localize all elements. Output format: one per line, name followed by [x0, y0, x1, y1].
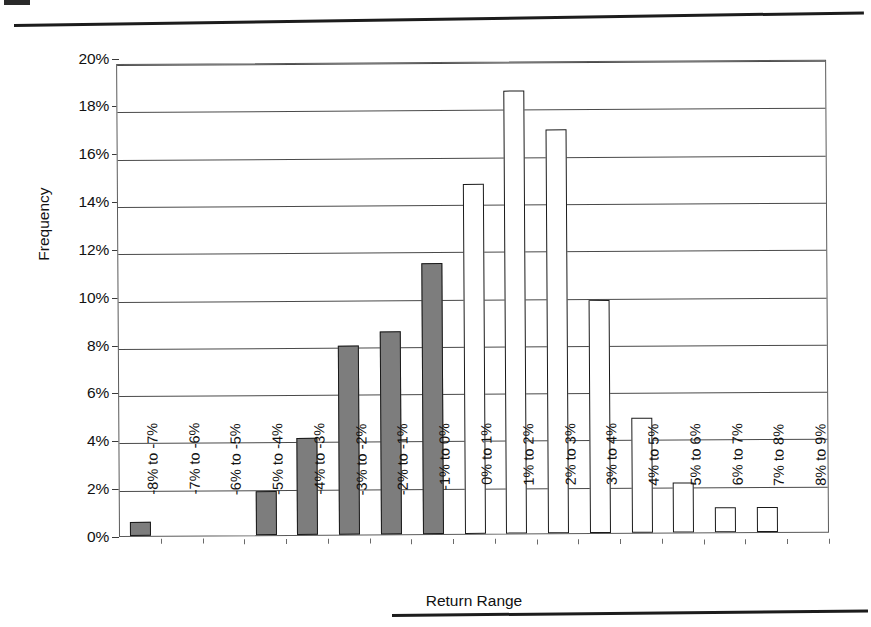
y-tick-label: 8% [53, 338, 109, 354]
y-tick-label: 0% [53, 529, 109, 545]
y-tick-label: 2% [53, 481, 109, 497]
y-tick-label: 10% [53, 290, 109, 306]
x-tick-label: -3% to -2% [354, 423, 370, 543]
x-tick-label: 4% to 5% [646, 423, 662, 543]
x-tick-label: 7% to 8% [772, 423, 788, 543]
x-tick-mark [829, 539, 830, 544]
x-tick-mark [286, 539, 287, 544]
bars-layer [117, 61, 828, 536]
x-tick-label: -4% to -3% [312, 423, 328, 543]
x-tick-mark [411, 539, 412, 544]
x-tick-mark [662, 539, 663, 544]
x-tick-label: 1% to 2% [521, 423, 537, 543]
y-tick-label: 16% [53, 146, 109, 162]
x-tick-label: 5% to 6% [688, 423, 704, 543]
x-tick-label: 8% to 9% [813, 423, 829, 543]
y-tick-label: 14% [53, 194, 109, 210]
x-tick-label: -2% to -1% [396, 423, 412, 543]
x-tick-mark [244, 539, 245, 544]
histogram-figure: Frequency 0%2%4%6%8%10%12%14%16%18%20% -… [0, 0, 871, 627]
x-tick-label: -8% to -7% [145, 423, 161, 543]
y-tick-mark [112, 537, 119, 538]
x-tick-mark [620, 539, 621, 544]
plot-area [116, 60, 829, 537]
x-tick-label: 2% to 3% [563, 423, 579, 543]
x-tick-label: -1% to 0% [438, 423, 454, 543]
x-tick-label: -6% to -5% [229, 423, 245, 543]
y-tick-label: 4% [53, 433, 109, 449]
y-tick-mark [112, 59, 119, 60]
x-tick-label: 6% to 7% [730, 423, 746, 543]
x-tick-label: 3% to 4% [605, 423, 621, 543]
x-tick-mark [787, 539, 788, 544]
y-tick-label: 18% [53, 98, 109, 114]
y-tick-label: 20% [53, 51, 109, 67]
x-axis-title: Return Range [119, 592, 829, 610]
x-tick-label: -7% to -6% [187, 423, 203, 543]
x-tick-label: -5% to -4% [270, 423, 286, 543]
y-tick-label: 12% [53, 242, 109, 258]
y-tick-label: 6% [53, 385, 109, 401]
x-tick-label: 0% to 1% [479, 423, 495, 543]
x-tick-mark [453, 539, 454, 544]
